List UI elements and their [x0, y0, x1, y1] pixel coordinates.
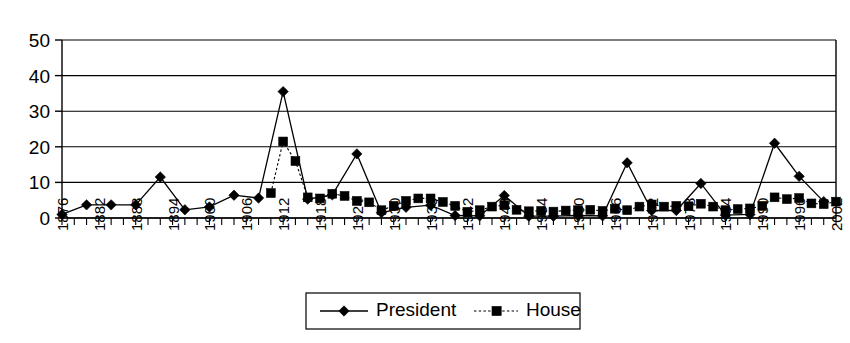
y-tick-label-0: 0	[39, 208, 50, 229]
data-point-house-1990	[758, 201, 767, 210]
chart-legend: PresidentHouse	[306, 293, 581, 329]
data-point-house-1934	[414, 194, 423, 203]
data-point-house-1910	[266, 189, 275, 198]
data-point-house-1940	[451, 201, 460, 210]
data-point-house-1986	[733, 205, 742, 214]
data-point-house-1918	[316, 194, 325, 203]
y-tick-label-10: 10	[29, 172, 50, 193]
chart-background	[0, 0, 850, 343]
y-tick-label-40: 40	[29, 66, 50, 87]
chart-container: 01020304050 1876188218881894190019061912…	[0, 0, 850, 343]
data-point-house-1994	[782, 195, 791, 204]
data-point-house-1954	[537, 206, 546, 215]
x-tick-label-1912: 1912	[275, 198, 292, 231]
data-point-house-1992	[770, 193, 779, 202]
data-point-house-1926	[365, 198, 374, 207]
data-point-house-1912	[279, 137, 288, 146]
y-tick-label-50: 50	[29, 30, 50, 51]
x-tick-label-1906: 1906	[238, 198, 255, 231]
data-point-house-1966	[610, 204, 619, 213]
data-point-house-1922	[340, 192, 349, 201]
data-point-house-2002	[832, 197, 841, 206]
data-point-house-1924	[352, 197, 361, 206]
data-point-house-1962	[586, 205, 595, 214]
data-point-house-1938	[438, 198, 447, 207]
legend-label-house: House	[526, 299, 581, 320]
data-point-house-1948	[500, 201, 509, 210]
legend-label-president: President	[376, 299, 457, 320]
legend-square-marker-icon	[492, 306, 501, 315]
data-point-house-1978	[684, 202, 693, 211]
data-point-house-1980	[696, 199, 705, 208]
data-point-house-1974	[660, 202, 669, 211]
line-chart: 01020304050 1876188218881894190019061912…	[0, 0, 850, 343]
data-point-house-1998	[807, 199, 816, 208]
x-tick-label-1882: 1882	[91, 198, 108, 231]
data-point-house-1968	[623, 206, 632, 215]
data-point-house-1958	[561, 206, 570, 215]
y-tick-label-20: 20	[29, 137, 50, 158]
data-point-house-1996	[795, 194, 804, 203]
data-point-house-1970	[635, 202, 644, 211]
y-tick-label-30: 30	[29, 101, 50, 122]
